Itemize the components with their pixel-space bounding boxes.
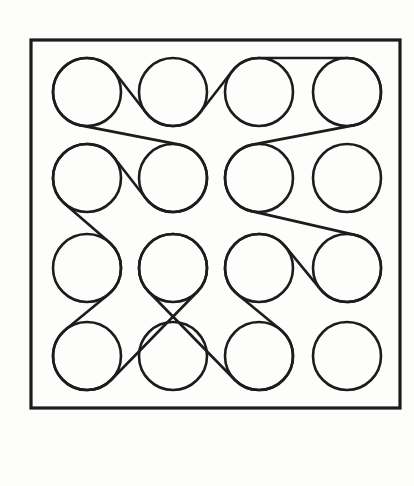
pulley-circle-r2-c4 bbox=[313, 144, 381, 212]
belt-loop bbox=[53, 58, 381, 390]
pulley-circle-r4-c4 bbox=[313, 322, 381, 390]
belt-pulley-diagram bbox=[0, 0, 414, 486]
pulley-circles bbox=[53, 58, 381, 390]
pulley-circle-r4-c2 bbox=[139, 322, 207, 390]
